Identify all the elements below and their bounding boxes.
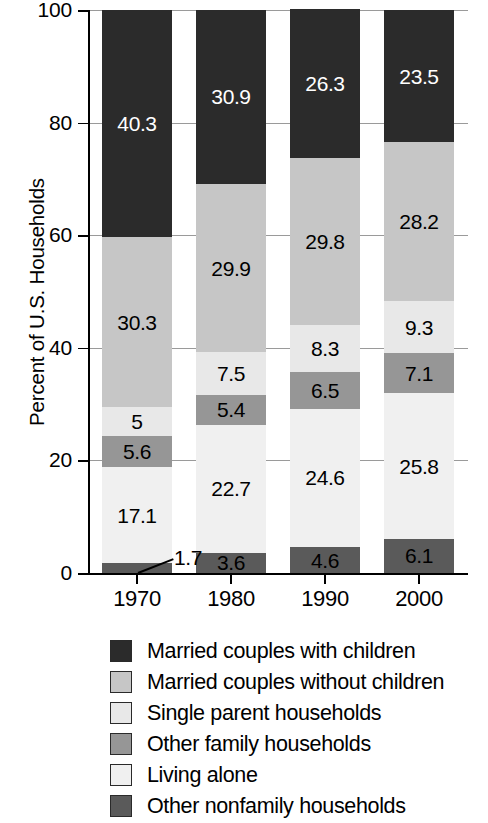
- bar-segment-1970-other-family-households[interactable]: 5.6: [102, 436, 172, 468]
- bar-segment-1980-other-family-households[interactable]: 5.4: [196, 395, 266, 425]
- y-tick-0: [78, 573, 89, 575]
- y-tick-40: [78, 348, 89, 350]
- bar-1990[interactable]: 4.624.66.58.329.826.3: [290, 10, 360, 573]
- legend-item[interactable]: Single parent households: [110, 698, 488, 728]
- legend-swatch-icon: [110, 702, 132, 724]
- callout-label-1-7: 1.7: [174, 546, 202, 570]
- bar-1980[interactable]: 3.622.75.47.529.930.9: [196, 10, 266, 573]
- bar-1970[interactable]: 1.717.15.6530.340.3: [102, 10, 172, 573]
- bar-value-label: 5.4: [217, 399, 245, 420]
- x-tick-2000: [418, 575, 420, 584]
- bar-value-label: 4.6: [311, 550, 339, 571]
- x-tick-1990: [324, 575, 326, 584]
- legend-swatch-icon: [110, 795, 132, 817]
- bar-segment-1980-married-couples-with-children[interactable]: 30.9: [196, 10, 266, 184]
- bar-value-label: 29.9: [211, 258, 250, 279]
- bar-segment-1970-married-couples-with-children[interactable]: 40.3: [102, 10, 172, 237]
- legend-swatch-icon: [110, 764, 132, 786]
- bar-value-label: 40.3: [117, 113, 156, 134]
- legend-item-label: Married couples with children: [147, 639, 415, 664]
- bar-segment-1980-living-alone[interactable]: 22.7: [196, 425, 266, 553]
- legend-item-label: Other family households: [147, 732, 371, 757]
- bar-value-label: 26.3: [305, 73, 344, 94]
- legend-item-label: Single parent households: [147, 701, 381, 726]
- bar-segment-1990-living-alone[interactable]: 24.6: [290, 409, 360, 547]
- bar-value-label: 29.8: [305, 231, 344, 252]
- legend-item[interactable]: Married couples with children: [110, 636, 488, 666]
- bar-value-label: 30.3: [117, 312, 156, 333]
- bar-value-label: 30.9: [211, 86, 250, 107]
- bar-segment-1990-other-family-households[interactable]: 6.5: [290, 372, 360, 409]
- legend-item[interactable]: Married couples without children: [110, 667, 488, 697]
- y-axis-line: [88, 10, 90, 575]
- y-tick-80: [78, 123, 89, 125]
- x-tick-label-1990: 1990: [275, 586, 375, 612]
- bar-segment-2000-single-parent-households[interactable]: 9.3: [384, 301, 454, 353]
- bar-value-label: 23.5: [399, 66, 438, 87]
- bar-segment-2000-other-family-households[interactable]: 7.1: [384, 353, 454, 393]
- stacked-bar-chart: 020406080100 Percent of U.S. Households …: [0, 0, 488, 823]
- bar-segment-1990-married-couples-without-children[interactable]: 29.8: [290, 158, 360, 326]
- bar-segment-1970-married-couples-without-children[interactable]: 30.3: [102, 237, 172, 408]
- bar-value-label: 25.8: [399, 456, 438, 477]
- bar-value-label: 17.1: [117, 505, 156, 526]
- x-tick-label-1970: 1970: [87, 586, 187, 612]
- legend-swatch-icon: [110, 640, 132, 662]
- bar-segment-2000-married-couples-with-children[interactable]: 23.5: [384, 10, 454, 142]
- y-tick-label-100: 100: [0, 0, 72, 20]
- bar-segment-1970-living-alone[interactable]: 17.1: [102, 467, 172, 563]
- y-tick-60: [78, 235, 89, 237]
- bar-value-label: 6.1: [405, 545, 433, 566]
- chart-legend: Married couples with childrenMarried cou…: [110, 636, 488, 822]
- bar-segment-2000-married-couples-without-children[interactable]: 28.2: [384, 142, 454, 301]
- y-tick-20: [78, 460, 89, 462]
- bar-value-label: 5.6: [123, 441, 151, 462]
- bar-2000[interactable]: 6.125.87.19.328.223.5: [384, 10, 454, 573]
- y-axis-title: Percent of U.S. Households: [25, 32, 49, 572]
- bar-value-label: 22.7: [211, 478, 250, 499]
- bar-value-label: 9.3: [405, 317, 433, 338]
- x-tick-label-2000: 2000: [369, 586, 469, 612]
- bar-segment-1990-married-couples-with-children[interactable]: 26.3: [290, 9, 360, 157]
- bar-value-label: 24.6: [305, 467, 344, 488]
- bar-segment-1980-other-nonfamily-households[interactable]: 3.6: [196, 553, 266, 573]
- x-tick-1980: [230, 575, 232, 584]
- legend-item-label: Other nonfamily households: [147, 794, 406, 819]
- bar-value-label: 8.3: [311, 338, 339, 359]
- bar-segment-2000-other-nonfamily-households[interactable]: 6.1: [384, 539, 454, 573]
- legend-item[interactable]: Living alone: [110, 760, 488, 790]
- bar-segment-1980-married-couples-without-children[interactable]: 29.9: [196, 184, 266, 352]
- bar-value-label: 28.2: [399, 211, 438, 232]
- bar-segment-1980-single-parent-households[interactable]: 7.5: [196, 352, 266, 394]
- bar-value-label: 7.1: [405, 363, 433, 384]
- y-tick-100: [78, 10, 89, 12]
- bar-value-label: 3.6: [217, 552, 245, 573]
- x-tick-1970: [136, 575, 138, 584]
- x-tick-label-1980: 1980: [181, 586, 281, 612]
- legend-swatch-icon: [110, 671, 132, 693]
- legend-item[interactable]: Other nonfamily households: [110, 791, 488, 821]
- legend-item-label: Living alone: [147, 763, 258, 788]
- bar-value-label: 5: [131, 411, 142, 432]
- x-axis-line: [88, 573, 468, 575]
- legend-swatch-icon: [110, 733, 132, 755]
- legend-item[interactable]: Other family households: [110, 729, 488, 759]
- bar-value-label: 7.5: [217, 363, 245, 384]
- legend-item-label: Married couples without children: [147, 670, 444, 695]
- bar-segment-1970-single-parent-households[interactable]: 5: [102, 407, 172, 435]
- bar-segment-2000-living-alone[interactable]: 25.8: [384, 393, 454, 538]
- bar-segment-1990-single-parent-households[interactable]: 8.3: [290, 325, 360, 372]
- bar-segment-1990-other-nonfamily-households[interactable]: 4.6: [290, 547, 360, 573]
- bar-value-label: 6.5: [311, 380, 339, 401]
